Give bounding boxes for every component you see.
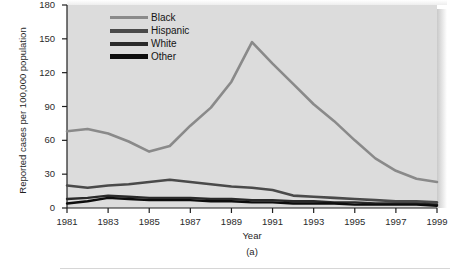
legend-swatch-black — [110, 16, 148, 19]
figure-caption: (a) — [182, 246, 322, 257]
x-tick-label: 1981 — [47, 216, 87, 227]
x-tick-label: 1993 — [294, 216, 334, 227]
x-tick-label: 1995 — [335, 216, 375, 227]
legend-label: Other — [151, 51, 176, 62]
y-tick-label: 90 — [25, 101, 55, 112]
x-tick-label: 1987 — [170, 216, 210, 227]
legend-swatch-white — [110, 42, 148, 46]
x-tick-label: 1985 — [129, 216, 169, 227]
x-tick-label: 1991 — [253, 216, 293, 227]
y-tick-label: 0 — [25, 202, 55, 213]
legend-item-black: Black — [110, 12, 189, 23]
legend-item-other: Other — [110, 51, 189, 62]
x-tick-label: 1997 — [376, 216, 416, 227]
bottom-divider — [60, 268, 450, 269]
y-tick-label: 150 — [25, 33, 55, 44]
x-tick-label: 1989 — [211, 216, 251, 227]
legend-item-hispanic: Hispanic — [110, 25, 189, 36]
legend-label: Hispanic — [151, 25, 189, 36]
data-series-group — [67, 42, 437, 206]
legend-swatch-hispanic — [110, 29, 148, 33]
x-tick-marks — [67, 208, 437, 213]
chart-legend: BlackHispanicWhiteOther — [110, 12, 189, 62]
legend-swatch-other — [110, 54, 148, 59]
y-tick-label: 180 — [25, 0, 55, 10]
series-line-black — [67, 42, 437, 182]
y-tick-marks — [62, 5, 67, 208]
x-axis-label: Year — [182, 230, 322, 241]
legend-label: Black — [151, 12, 175, 23]
legend-item-white: White — [110, 38, 189, 49]
x-tick-label: 1983 — [88, 216, 128, 227]
figure-panel-a: Reported cases per 100,000 population 03… — [0, 0, 459, 274]
y-tick-label: 30 — [25, 168, 55, 179]
y-tick-label: 60 — [25, 134, 55, 145]
legend-label: White — [151, 38, 177, 49]
x-tick-label: 1999 — [417, 216, 457, 227]
y-tick-label: 120 — [25, 67, 55, 78]
